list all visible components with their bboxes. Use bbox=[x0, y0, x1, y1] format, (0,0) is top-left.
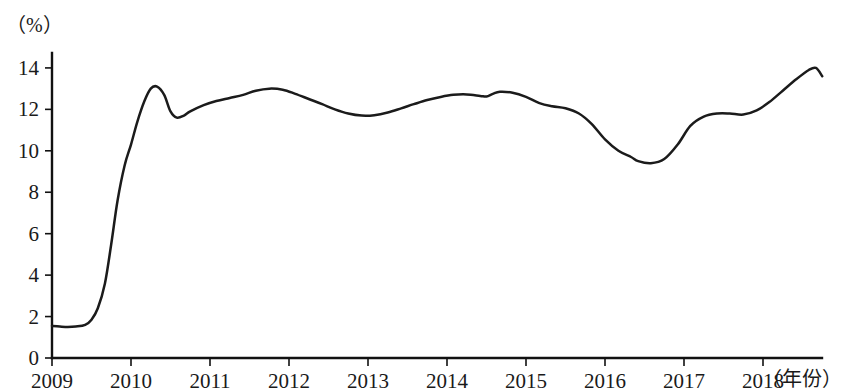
x-tick-label: 2014 bbox=[426, 369, 469, 392]
x-axis-group: 2009201020112012201320142015201620172018 bbox=[31, 358, 822, 392]
y-tick-label: 2 bbox=[29, 305, 40, 329]
line-chart: 02468101214 2009201020112012201320142015… bbox=[0, 0, 866, 392]
x-tick-label: 2017 bbox=[663, 369, 705, 392]
y-tick-label: 10 bbox=[18, 139, 39, 163]
x-tick-label: 2011 bbox=[189, 369, 230, 392]
y-tick-label: 12 bbox=[18, 97, 39, 121]
data-series-group bbox=[52, 68, 822, 327]
y-tick-label: 14 bbox=[18, 56, 40, 80]
y-tick-label: 8 bbox=[29, 180, 40, 204]
chart-canvas: 02468101214 2009201020112012201320142015… bbox=[0, 0, 866, 392]
x-tick-label: 2009 bbox=[31, 369, 73, 392]
y-axis-label: （%） bbox=[6, 14, 63, 36]
x-tick-label: 2015 bbox=[505, 369, 547, 392]
x-axis-label: （年份） bbox=[762, 368, 842, 390]
x-tick-label: 2016 bbox=[584, 369, 626, 392]
x-tick-label: 2012 bbox=[268, 369, 310, 392]
x-axis-tick-labels: 2009201020112012201320142015201620172018 bbox=[31, 369, 784, 392]
y-axis-group: 02468101214 bbox=[18, 53, 52, 370]
y-tick-label: 4 bbox=[29, 263, 40, 287]
y-tick-label: 6 bbox=[29, 222, 40, 246]
data-series-line bbox=[52, 68, 822, 327]
y-axis-tick-labels: 02468101214 bbox=[18, 56, 40, 370]
x-tick-label: 2013 bbox=[347, 369, 389, 392]
x-tick-label: 2010 bbox=[110, 369, 152, 392]
y-tick-label: 0 bbox=[29, 346, 40, 370]
